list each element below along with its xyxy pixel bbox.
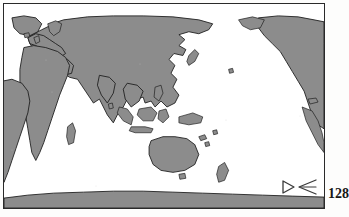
land-pacific-islands bbox=[213, 130, 218, 135]
land-iceland bbox=[24, 33, 30, 38]
map-frame-border: .land { fill: #8c8c8c; stroke: #1f1f1f; … bbox=[3, 3, 325, 209]
triangle-outline-icon bbox=[283, 181, 294, 193]
world-map-figure: .land { fill: #8c8c8c; stroke: #1f1f1f; … bbox=[3, 3, 325, 209]
land-java bbox=[129, 127, 153, 133]
book-page: .land { fill: #8c8c8c; stroke: #1f1f1f; … bbox=[0, 0, 349, 217]
page-number: 128 bbox=[328, 186, 349, 202]
land-pacific-islands-3 bbox=[229, 68, 234, 73]
land-sri-lanka bbox=[108, 103, 113, 109]
land-pacific-islands-2 bbox=[205, 142, 210, 147]
land-australia bbox=[149, 137, 199, 173]
triangle-arrow-marker-icon bbox=[280, 178, 320, 196]
world-map-graphic: .land { fill: #8c8c8c; stroke: #1f1f1f; … bbox=[4, 4, 324, 208]
land-tasmania bbox=[179, 173, 186, 179]
